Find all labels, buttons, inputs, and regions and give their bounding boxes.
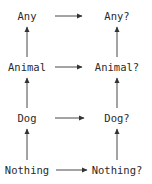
node-any-nullable: Any? — [104, 11, 129, 22]
node-animal: Animal — [8, 62, 46, 73]
node-any: Any — [18, 11, 37, 22]
node-dog: Dog — [18, 113, 37, 124]
node-dog-nullable: Dog? — [104, 113, 129, 124]
arrows-layer — [0, 0, 152, 184]
node-nothing-nullable: Nothing? — [92, 165, 143, 176]
node-nothing: Nothing — [5, 165, 49, 176]
node-animal-nullable: Animal? — [95, 62, 139, 73]
